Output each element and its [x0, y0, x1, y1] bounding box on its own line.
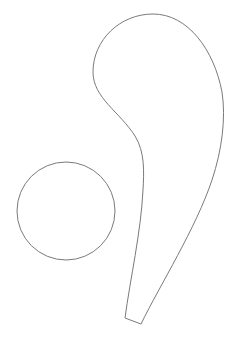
teardrop-shape [93, 14, 224, 324]
circle-shape [17, 162, 115, 260]
drawing-canvas [0, 0, 240, 348]
drawing-svg [0, 0, 240, 348]
